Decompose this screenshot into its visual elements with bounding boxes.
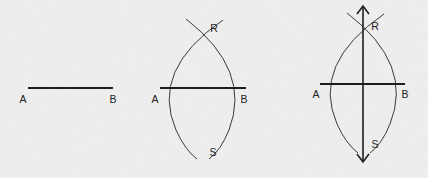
label-point-b: B <box>109 94 116 105</box>
label-point-r: R <box>371 21 379 32</box>
diagram-stage: A B A B R S A B R S <box>0 0 428 178</box>
label-point-b: B <box>240 94 247 105</box>
label-point-a: A <box>19 94 26 105</box>
label-point-s: S <box>371 139 378 150</box>
label-point-s: S <box>209 147 216 158</box>
label-point-r: R <box>210 23 218 34</box>
label-point-a: A <box>151 94 158 105</box>
label-point-a: A <box>312 89 319 100</box>
label-point-b: B <box>401 89 408 100</box>
